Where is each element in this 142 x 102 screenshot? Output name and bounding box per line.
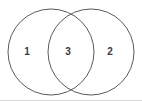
venn-label-intersection: 3 — [61, 47, 75, 57]
venn-label-left-only: 1 — [20, 47, 34, 57]
bottom-divider — [0, 100, 142, 101]
venn-label-right-only: 2 — [103, 47, 117, 57]
venn-diagram-figure: 1 3 2 — [0, 0, 142, 102]
